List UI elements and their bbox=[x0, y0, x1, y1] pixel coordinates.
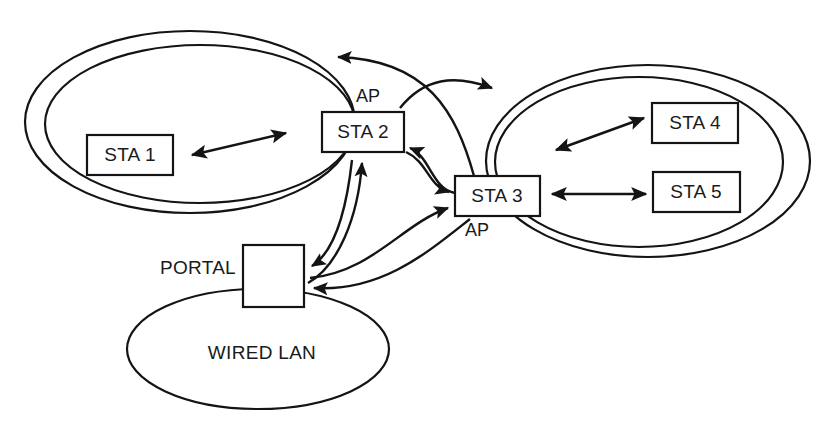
sta3-ap-label: AP bbox=[465, 220, 489, 240]
ds-curve-sta2-to-bss-right bbox=[400, 80, 492, 108]
node-sta5[interactable]: STA 5 bbox=[653, 172, 740, 212]
wired-lan-label: WIRED LAN bbox=[208, 342, 316, 363]
sta2-label: STA 2 bbox=[337, 121, 388, 142]
node-sta3[interactable]: STA 3 AP bbox=[455, 176, 540, 240]
bss-right-outer-ellipse bbox=[486, 65, 810, 257]
diagram-svg: WIRED LAN STA 1 AP bbox=[0, 0, 832, 436]
portal-box[interactable] bbox=[243, 245, 304, 307]
sta3-label: STA 3 bbox=[471, 185, 522, 206]
node-sta4[interactable]: STA 4 bbox=[652, 103, 738, 143]
bss-left-cloud bbox=[25, 31, 355, 213]
ds-curve-sta3-to-sta2 bbox=[410, 148, 455, 193]
node-sta1[interactable]: STA 1 bbox=[87, 135, 173, 175]
bss-right-cloud bbox=[486, 65, 810, 257]
network-diagram-canvas: WIRED LAN STA 1 AP bbox=[0, 0, 832, 436]
bss-left-outer-ellipse bbox=[25, 31, 355, 213]
sta1-label: STA 1 bbox=[104, 144, 155, 165]
sta4-label: STA 4 bbox=[669, 112, 721, 133]
portal-label: PORTAL bbox=[160, 257, 236, 278]
sta5-label: STA 5 bbox=[670, 181, 721, 202]
sta2-ap-label: AP bbox=[356, 86, 380, 106]
